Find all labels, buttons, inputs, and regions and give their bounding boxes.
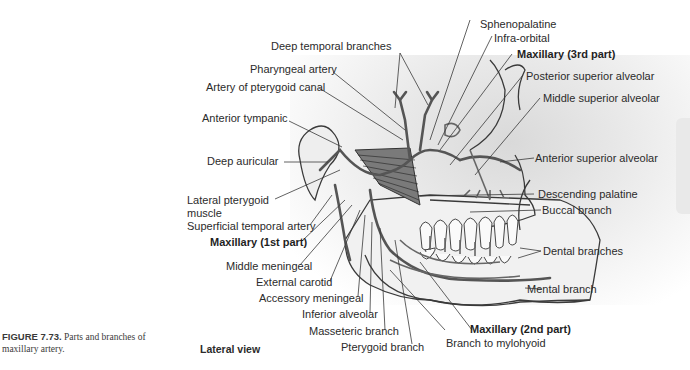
label-mental-branch: Mental branch — [527, 283, 597, 296]
label-anterior-tympanic: Anterior tympanic — [202, 112, 288, 125]
label-middle-superior-alveolar: Middle superior alveolar — [543, 92, 660, 105]
view-label: Lateral view — [200, 343, 260, 355]
figure-number: FIGURE 7.73. — [2, 331, 62, 342]
label-branch-to-mylohyoid: Branch to mylohyoid — [446, 337, 546, 350]
anatomy-figure: Deep temporal branches Pharyngeal artery… — [0, 0, 690, 370]
label-accessory-meningeal: Accessory meningeal — [259, 292, 364, 305]
label-pterygoid-branch: Pterygoid branch — [341, 341, 424, 354]
label-pharyngeal-artery: Pharyngeal artery — [250, 63, 337, 76]
label-infra-orbital: Infra-orbital — [494, 32, 550, 45]
label-lateral-pterygoid-muscle-line1: Lateral pterygoid — [187, 194, 269, 207]
label-descending-palatine: Descending palatine — [538, 188, 638, 201]
figure-caption: FIGURE 7.73. Parts and branches of maxil… — [2, 331, 162, 355]
label-external-carotid: External carotid — [256, 276, 332, 289]
label-inferior-alveolar: Inferior alveolar — [302, 308, 378, 321]
label-maxillary-2nd-part: Maxillary (2nd part) — [470, 323, 571, 336]
label-masseteric-branch: Masseteric branch — [309, 325, 399, 338]
label-maxillary-3rd-part: Maxillary (3rd part) — [517, 48, 615, 61]
label-deep-auricular: Deep auricular — [207, 155, 279, 168]
label-middle-meningeal: Middle meningeal — [226, 260, 312, 273]
label-superficial-temporal-artery: Superficial temporal artery — [187, 220, 315, 233]
label-maxillary-1st-part: Maxillary (1st part) — [210, 236, 307, 249]
label-lateral-pterygoid-muscle-line2: muscle — [187, 207, 222, 220]
label-posterior-superior-alveolar: Posterior superior alveolar — [526, 70, 654, 83]
label-dental-branches: Dental branches — [543, 245, 623, 258]
label-artery-of-pterygoid-canal: Artery of pterygoid canal — [206, 81, 325, 94]
label-deep-temporal-branches: Deep temporal branches — [271, 40, 391, 53]
label-sphenopalatine: Sphenopalatine — [480, 18, 556, 31]
label-anterior-superior-alveolar: Anterior superior alveolar — [535, 152, 658, 165]
label-buccal-branch: Buccal branch — [542, 204, 612, 217]
